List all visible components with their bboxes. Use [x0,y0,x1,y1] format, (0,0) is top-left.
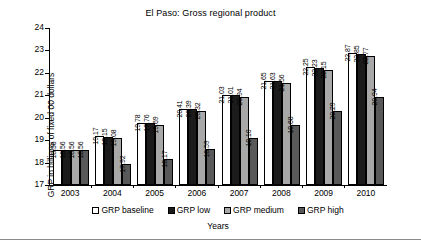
y-tick-label: 24 [35,22,44,33]
bar-value-label: 19.08 [110,130,118,147]
bar-value-label: 21.01 [227,87,235,104]
bar: 17.92 [122,164,131,185]
bar-value-label: 21.03 [218,86,226,103]
bar-group-bars: 21.6521.6321.5619.68 [264,28,300,185]
bar-value-label: 19.10 [245,129,253,146]
bar-group-bars: 19.1719.1519.0817.92 [95,28,131,185]
bar-value-label: 20.32 [194,102,202,119]
bar: 22.15 [324,70,333,186]
bar-value-label: 18.17 [161,150,169,167]
bar-value-label: 22.77 [362,47,370,64]
bar: 20.39 [188,109,197,185]
bar-value-label: 22.85 [353,45,361,62]
bar: 20.41 [179,109,188,185]
bar-value-label: 20.39 [185,100,193,117]
legend-swatch-icon [168,207,175,214]
bar: 22.23 [315,68,324,185]
legend-label: GRP baseline [101,205,153,216]
bar-value-label: 22.15 [320,61,328,78]
bar: 22.85 [357,54,366,185]
legend-item[interactable]: GRP high [298,205,344,216]
bar: 19.10 [249,138,258,185]
legend-item[interactable]: GRP low [168,205,210,216]
x-tick-label: 2005 [134,188,176,199]
bar-value-label: 18.56 [59,142,67,159]
bar-value-label: 22.23 [311,59,319,76]
bar: 20.94 [375,97,384,185]
bar-group-bars: 18.5618.5618.5618.56 [53,28,89,185]
bar: 21.63 [273,81,282,185]
legend-label: GRP low [177,205,210,216]
bar-group: 19.7819.7619.6918.17 [134,28,176,185]
legend-swatch-icon [92,207,99,214]
legend-swatch-icon [298,207,305,214]
bar-value-label: 20.41 [176,100,184,117]
y-tick-label: 22 [35,67,44,78]
bar-value-label: 22.25 [302,59,310,76]
bar: 19.68 [291,125,300,185]
chart-legend: GRP baselineGRP lowGRP mediumGRP high [49,205,387,216]
bar-value-label: 18.56 [50,142,58,159]
bar: 18.59 [206,149,215,185]
bar-value-label: 19.78 [134,114,142,131]
bar: 20.29 [333,111,342,185]
bar-value-label: 20.94 [236,88,244,105]
x-tick-label: 2004 [91,188,133,199]
bar-group: 22.8722.8522.7720.94 [345,28,387,185]
bar-value-label: 19.15 [101,128,109,145]
bar-group: 19.1719.1519.0817.92 [92,28,134,185]
x-tick-label: 2007 [218,188,260,199]
y-tick-label: 20 [35,112,44,123]
bar-value-label: 17.92 [119,156,127,173]
y-tick-label: 21 [35,89,44,100]
bar-group: 20.4120.3920.3218.59 [176,28,218,185]
legend-item[interactable]: GRP medium [224,205,284,216]
bar-group-bars: 22.8722.8522.7720.94 [348,28,384,185]
x-axis-title: Years [49,221,387,232]
bar: 21.65 [264,81,273,185]
bar-group: 22.2522.2322.1520.29 [303,28,345,185]
y-tick-label: 17 [35,179,44,190]
bar-value-label: 18.56 [77,142,85,159]
bar-groups: 18.5618.5618.5618.5619.1719.1519.0817.92… [50,28,387,185]
bar-group: 21.6521.6321.5619.68 [261,28,303,185]
bar: 22.87 [348,53,357,185]
x-tick-label: 2009 [303,188,345,199]
bar-group: 18.5618.5618.5618.56 [50,28,92,185]
bar-value-label: 18.59 [203,141,211,158]
bar-value-label: 19.68 [287,116,295,133]
bar-group-bars: 20.4120.3920.3218.59 [179,28,215,185]
bar: 19.78 [137,123,146,185]
x-tick-label: 2003 [49,188,91,199]
y-tick-label: 19 [35,134,44,145]
plot-area: 1718192021222324 GRP in billions of fixe… [49,28,387,186]
bar-group-bars: 22.2522.2322.1520.29 [306,28,342,185]
x-tick-label: 2006 [176,188,218,199]
bar-value-label: 19.76 [143,115,151,132]
bar: 21.01 [231,95,240,185]
y-tick-label: 18 [35,157,44,168]
bar: 21.56 [282,83,291,185]
bar-value-label: 22.87 [344,45,352,62]
bar: 22.25 [306,67,315,185]
bar-value-label: 19.69 [152,116,160,133]
bar-value-label: 20.94 [371,88,379,105]
bar-value-label: 20.29 [329,103,337,120]
legend-label: GRP medium [233,205,284,216]
legend-swatch-icon [224,207,231,214]
x-tick-label: 2010 [345,188,387,199]
bar: 18.17 [164,159,173,185]
bar-value-label: 21.65 [260,72,268,89]
chart-title: El Paso: Gross regional product [0,8,421,19]
legend-label: GRP high [307,205,344,216]
bar: 22.77 [366,56,375,185]
bar-value-label: 18.56 [68,142,76,159]
bar: 21.03 [222,95,231,185]
bar-value-label: 19.17 [92,128,100,145]
bar: 18.56 [80,150,89,185]
chart-figure: El Paso: Gross regional product 17181920… [0,0,421,247]
legend-item[interactable]: GRP baseline [92,205,153,216]
bar-value-label: 21.63 [269,73,277,90]
y-tick-label: 23 [35,44,44,55]
x-tick-label: 2008 [260,188,302,199]
